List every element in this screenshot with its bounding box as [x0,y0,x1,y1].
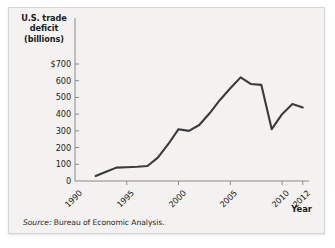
x-axis-title: Year [291,204,312,214]
chart-figure: U.S. trade deficit (billions) 0100200300… [8,7,325,234]
source-text: Bureau of Economic Analysis. [51,218,164,227]
source-note: Source: Bureau of Economic Analysis. [23,218,165,227]
x-axis-tick-label: 2005 [194,188,239,233]
x-axis-tick-labels: 199019952000200520102012 [9,8,326,235]
source-label: Source: [23,218,51,227]
